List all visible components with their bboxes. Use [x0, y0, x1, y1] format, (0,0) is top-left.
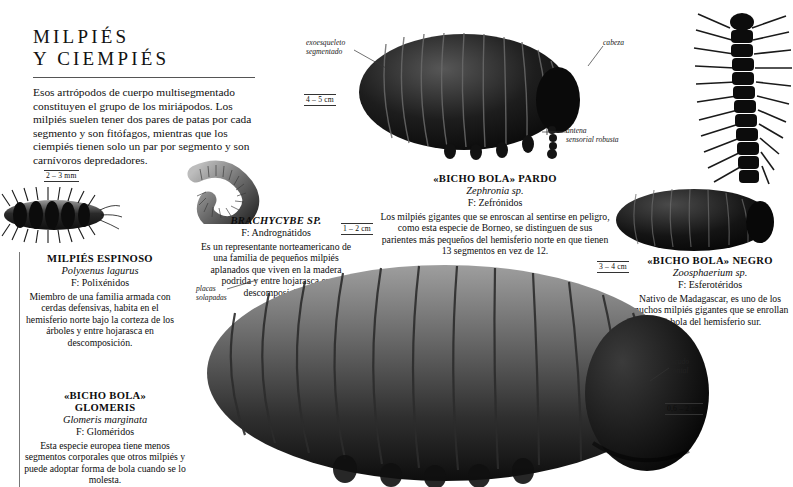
- callout-leader-head: [585, 44, 607, 70]
- bicho-bola-negro-illustration: [610, 176, 780, 254]
- callout-label-line2: segmentado: [306, 47, 345, 56]
- latin-name: Polyxenus lagurus: [20, 265, 180, 277]
- callout-label-line2: sensorial robusta: [566, 135, 619, 144]
- callout-leader-exoskeleton: [352, 44, 392, 72]
- description: Miembro de una familia armada con cerdas…: [20, 291, 180, 348]
- callout-label-line1: placas: [196, 284, 227, 293]
- specimen-milpies-espinoso-figure: [0, 182, 121, 244]
- description: Los milpiés gigantes que se enroscan al …: [380, 211, 610, 257]
- milpies-espinoso-illustration: [0, 182, 126, 246]
- common-name: «BICHO BOLA» PARDO: [380, 173, 610, 185]
- caption-glomeris: «BICHO BOLA» GLOMERIS Glomeris marginata…: [20, 390, 190, 486]
- column-divider-left: [19, 252, 20, 487]
- family-name: F: Gloméridos: [20, 426, 190, 438]
- common-name-line1: «BICHO BOLA»: [20, 390, 190, 402]
- scale-bar-label: 0,6 – 2 cm: [665, 403, 703, 415]
- callout-antenna: antena sensorial robusta: [566, 126, 619, 144]
- scale-bar-label: 4 – 5 cm: [304, 94, 336, 106]
- page-title-line2: Y CIEMPIÉS: [33, 48, 255, 70]
- latin-name: Glomeris marginata: [20, 414, 190, 426]
- encyclopedia-page: MILPIÉS Y CIEMPIÉS Esos artrópodos de cu…: [0, 0, 793, 487]
- specimen-glomeris-figure: [195, 255, 715, 487]
- callout-label-line1: exoesqueleto: [306, 38, 345, 47]
- common-name: BRACHYCYBE SP.: [196, 215, 356, 227]
- callout-exoskeleton: exoesqueleto segmentado: [306, 38, 345, 56]
- scale-bar-bicho-bola-pardo: 4 – 5 cm: [304, 88, 336, 106]
- scale-bar-glomeris: 0,6 – 2 cm: [665, 397, 703, 415]
- common-name: MILPIÉS ESPINOSO: [20, 253, 180, 265]
- latin-name: Zephronia sp.: [380, 185, 610, 197]
- callout-label-line2: solapadas: [196, 293, 227, 302]
- caption-bicho-bola-pardo: «BICHO BOLA» PARDO Zephronia sp. F: Zefr…: [380, 173, 610, 257]
- family-name: F: Andrognátidos: [196, 227, 356, 239]
- page-title-line1: MILPIÉS: [33, 26, 255, 48]
- callout-label-line1: antena: [566, 126, 619, 135]
- family-name: F: Polixénidos: [20, 277, 180, 289]
- scale-bar-milpies-espinoso: 2 – 3 mm: [44, 164, 79, 182]
- callout-label-line1: escudo: [668, 357, 689, 366]
- glomeris-illustration: [195, 255, 715, 487]
- header-block: MILPIÉS Y CIEMPIÉS Esos artrópodos de cu…: [33, 26, 255, 168]
- specimen-brachycybe-figure: [186, 160, 306, 222]
- centipede-figure: [690, 10, 793, 190]
- family-name: F: Zefrónidos: [380, 197, 610, 209]
- callout-plates: placas solapadas: [196, 284, 227, 302]
- scale-bar-label: 2 – 3 mm: [44, 170, 79, 182]
- specimen-bicho-bola-negro-figure: [610, 176, 780, 254]
- common-name-line2: GLOMERIS: [20, 402, 190, 414]
- caption-milpies-espinoso: MILPIÉS ESPINOSO Polyxenus lagurus F: Po…: [20, 253, 180, 348]
- description: Esta especie europea tiene menos segment…: [20, 440, 190, 486]
- callout-leader-shield: [648, 366, 672, 384]
- callout-leader-plates: [225, 278, 261, 292]
- centipede-illustration: [690, 10, 793, 192]
- callout-leader-antenna: [541, 128, 569, 136]
- title-divider: [33, 77, 255, 78]
- intro-paragraph: Esos artrópodos de cuerpo multisegmentad…: [33, 86, 255, 168]
